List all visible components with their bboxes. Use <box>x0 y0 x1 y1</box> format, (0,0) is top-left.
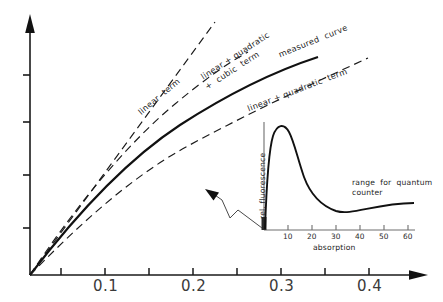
inset-x-ticks <box>288 225 408 230</box>
inset-x-axis-label: absorption <box>313 243 356 252</box>
range-annotation-line1: range for quantum <box>352 178 432 187</box>
inset-x-tick-10: 10 <box>283 232 292 241</box>
inset-chart-svg <box>0 0 443 302</box>
range-annotation-line2: counter <box>352 188 383 197</box>
zigzag-pointer-icon <box>205 189 262 228</box>
figure-canvas: 0.1 0.2 0.3 0.4 linear term linear + qua… <box>0 0 443 302</box>
inset-x-tick-50: 50 <box>379 232 388 241</box>
inset-x-tick-30: 30 <box>331 232 340 241</box>
inset-x-tick-60: 60 <box>403 232 412 241</box>
inset-x-tick-20: 20 <box>307 232 316 241</box>
inset-y-axis-label: rel. fluorescence <box>258 153 267 219</box>
inset-x-tick-40: 40 <box>355 232 364 241</box>
